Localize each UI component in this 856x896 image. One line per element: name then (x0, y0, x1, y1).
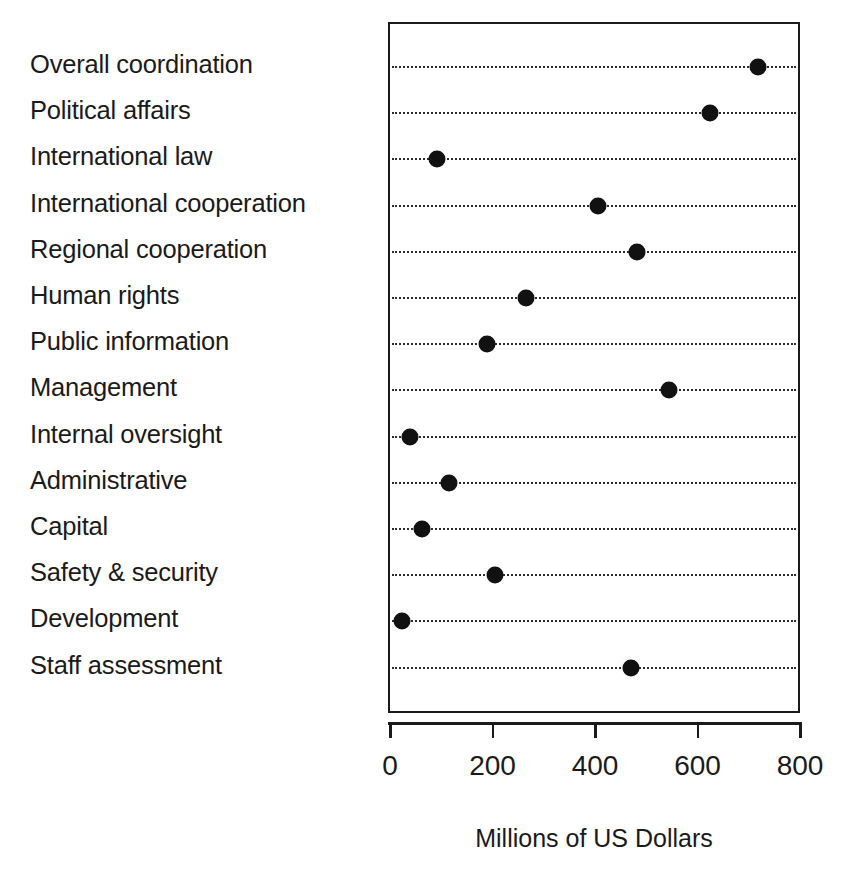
x-axis-tick (594, 722, 597, 738)
dot-plot-figure: Overall coordinationPolitical affairsInt… (0, 0, 856, 896)
dot-row (390, 566, 798, 584)
data-point-marker (623, 659, 640, 676)
data-point-marker (401, 428, 418, 445)
leader-line (392, 620, 796, 622)
dot-row (390, 381, 798, 399)
category-label: Overall coordination (0, 52, 382, 78)
leader-line (392, 112, 796, 114)
category-label: Safety & security (0, 560, 382, 586)
x-axis-tick (389, 722, 392, 738)
dot-row (390, 104, 798, 122)
data-point-marker (487, 567, 504, 584)
dot-row (390, 474, 798, 492)
data-point-marker (479, 336, 496, 353)
category-label: Management (0, 375, 382, 401)
plot-area (388, 22, 800, 713)
category-label: Staff assessment (0, 653, 382, 679)
category-label: International cooperation (0, 191, 382, 217)
category-label: Political affairs (0, 98, 382, 124)
dot-row (390, 150, 798, 168)
x-axis-title: Millions of US Dollars (388, 826, 800, 851)
category-label: Administrative (0, 468, 382, 494)
category-axis-labels: Overall coordinationPolitical affairsInt… (0, 0, 386, 896)
x-axis-tick-label: 0 (382, 752, 398, 780)
category-label: Development (0, 606, 382, 632)
dot-row (390, 243, 798, 261)
dot-row (390, 197, 798, 215)
data-point-marker (661, 382, 678, 399)
data-point-marker (429, 151, 446, 168)
leader-line (392, 66, 796, 68)
dot-row (390, 428, 798, 446)
category-label: Human rights (0, 283, 382, 309)
x-axis-tick (492, 722, 495, 738)
leader-line (392, 436, 796, 438)
leader-line (392, 389, 796, 391)
x-axis-tick-label: 800 (777, 752, 824, 780)
data-point-marker (414, 521, 431, 538)
x-axis-tick (697, 722, 700, 738)
x-axis-tick (799, 722, 802, 738)
x-axis-line (388, 722, 800, 725)
dot-row (390, 659, 798, 677)
data-point-marker (749, 59, 766, 76)
data-point-marker (628, 243, 645, 260)
leader-line (392, 158, 796, 160)
leader-line (392, 297, 796, 299)
data-point-marker (440, 474, 457, 491)
data-point-marker (702, 105, 719, 122)
x-axis-tick-label: 200 (469, 752, 516, 780)
data-point-marker (517, 290, 534, 307)
dot-row (390, 612, 798, 630)
data-point-marker (590, 197, 607, 214)
leader-line (392, 251, 796, 253)
leader-line (392, 343, 796, 345)
x-axis-tick-label: 400 (572, 752, 619, 780)
category-label: Regional cooperation (0, 237, 382, 263)
leader-line (392, 667, 796, 669)
data-point-marker (394, 613, 411, 630)
dot-row (390, 520, 798, 538)
leader-line (392, 528, 796, 530)
category-label: International law (0, 144, 382, 170)
dot-row (390, 289, 798, 307)
leader-line (392, 574, 796, 576)
dot-row (390, 58, 798, 76)
dot-row (390, 335, 798, 353)
category-label: Capital (0, 514, 382, 540)
category-label: Public information (0, 329, 382, 355)
category-label: Internal oversight (0, 422, 382, 448)
x-axis-tick-label: 600 (674, 752, 721, 780)
